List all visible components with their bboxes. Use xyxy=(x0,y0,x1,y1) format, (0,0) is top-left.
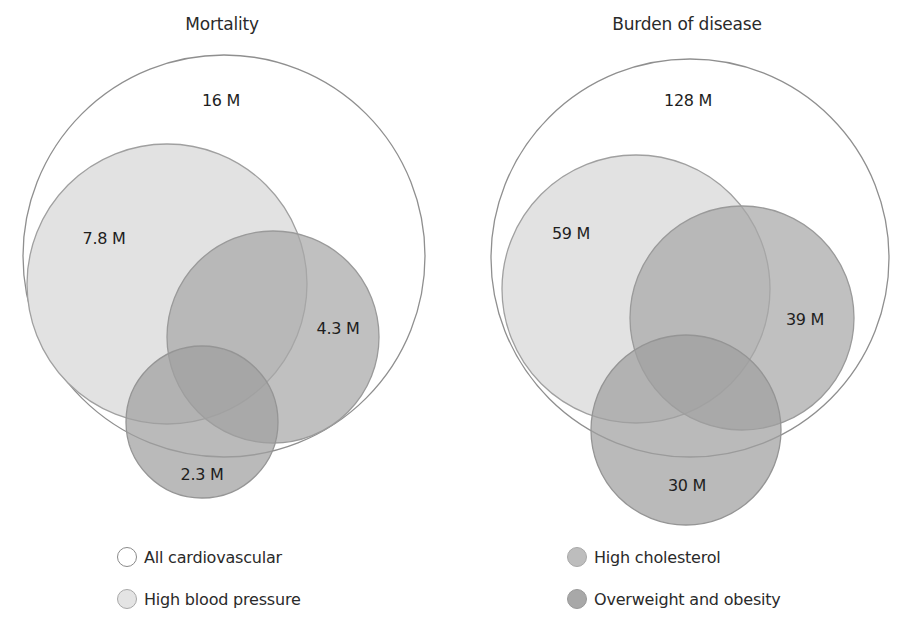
mortality-high-cholesterol-value: 4.3 M xyxy=(317,319,360,338)
burden-all-cardiovascular-value: 128 M xyxy=(664,91,712,110)
legend-item-all-cardiovascular: All cardiovascular xyxy=(117,547,282,567)
legend-label: All cardiovascular xyxy=(144,548,282,567)
dark-gray-circle-swatch-icon xyxy=(567,589,587,609)
medium-gray-circle-swatch-icon xyxy=(567,547,587,567)
burden-overweight-obesity-value: 30 M xyxy=(668,476,706,495)
legend-label: High blood pressure xyxy=(144,590,301,609)
legend-item-high-cholesterol: High cholesterol xyxy=(567,547,721,567)
burden-high-blood-pressure-value: 59 M xyxy=(552,224,590,243)
legend-item-overweight-obesity: Overweight and obesity xyxy=(567,589,781,609)
light-gray-circle-swatch-icon xyxy=(117,589,137,609)
burden-overweight-obesity-circle xyxy=(591,335,781,525)
legend-item-high-blood-pressure: High blood pressure xyxy=(117,589,301,609)
burden-high-cholesterol-value: 39 M xyxy=(786,310,824,329)
mortality-all-cardiovascular-value: 16 M xyxy=(202,91,240,110)
white-circle-swatch-icon xyxy=(117,547,137,567)
burden-venn xyxy=(491,59,889,525)
legend-label: High cholesterol xyxy=(594,548,721,567)
legend-label: Overweight and obesity xyxy=(594,590,781,609)
venn-diagrams xyxy=(0,0,901,637)
mortality-overweight-obesity-value: 2.3 M xyxy=(181,465,224,484)
mortality-venn xyxy=(23,55,425,498)
mortality-high-blood-pressure-value: 7.8 M xyxy=(83,229,126,248)
